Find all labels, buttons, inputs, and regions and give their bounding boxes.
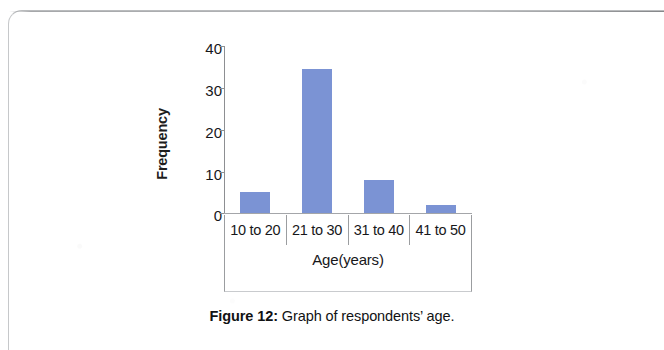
y-tick-label-10: 10 [182, 167, 222, 182]
x-axis-category-row: 10 to 20 21 to 30 31 to 40 41 to 50 [224, 215, 472, 245]
y-axis-title: Frequency [154, 84, 172, 204]
figure-caption-label: Figure 12: [210, 308, 278, 324]
x-axis-title-row: Age(years) [224, 245, 472, 292]
y-tick-label-40: 40 [182, 41, 222, 56]
bar-10-to-20[interactable] [240, 192, 270, 213]
bar-chart: Frequency 40 30 20 10 0 [160, 36, 490, 292]
y-tick-label-0: 0 [182, 208, 222, 223]
x-tick-label-2: 31 to 40 [349, 215, 411, 245]
plot-area [224, 46, 472, 214]
bar-slot [348, 46, 410, 213]
x-tick-label-1: 21 to 30 [287, 215, 349, 245]
bar-series [224, 46, 472, 213]
bar-21-to-30[interactable] [302, 69, 332, 213]
x-axis-title: Age(years) [312, 251, 383, 268]
bar-slot [286, 46, 348, 213]
bar-31-to-40[interactable] [364, 180, 394, 213]
figure-caption-text: Graph of respondents’ age. [278, 308, 455, 324]
x-tick-label-3: 41 to 50 [410, 215, 471, 245]
bar-slot [410, 46, 472, 213]
bar-slot [224, 46, 286, 213]
figure-caption: Figure 12: Graph of respondents’ age. [0, 308, 664, 324]
bar-41-to-50[interactable] [426, 205, 456, 213]
x-tick-label-0: 10 to 20 [225, 215, 287, 245]
y-tick-label-20: 20 [182, 125, 222, 140]
y-tick-label-30: 30 [182, 83, 222, 98]
x-axis-line [224, 213, 472, 214]
